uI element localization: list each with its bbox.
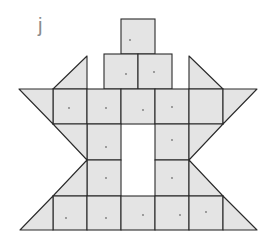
right-waist-triangle-upper <box>189 124 223 160</box>
right-bow-triangle <box>223 89 257 124</box>
pencil-mark <box>171 177 173 179</box>
pencil-mark <box>142 109 144 111</box>
left-bow-triangle <box>19 89 53 124</box>
grid-square <box>87 124 121 160</box>
pencil-mark <box>105 177 107 179</box>
pencil-mark <box>171 139 173 141</box>
right-waist-triangle-lower <box>189 160 223 196</box>
grid-square <box>87 196 121 230</box>
grid-square <box>155 124 189 160</box>
top-square <box>121 19 155 54</box>
left-waist-triangle-lower <box>53 160 87 196</box>
grid-square <box>53 196 87 230</box>
tier-square <box>138 54 172 89</box>
grid-square <box>189 89 223 124</box>
pencil-mark <box>105 146 107 148</box>
pencil-mark <box>105 107 107 109</box>
right-hull-triangle <box>223 196 257 230</box>
grid-square <box>189 196 223 230</box>
grid-square <box>87 160 121 196</box>
grid-square <box>53 89 87 124</box>
pencil-mark <box>142 214 144 216</box>
pencil-mark <box>105 217 107 219</box>
pencil-mark <box>65 217 67 219</box>
boat-tiling-figure <box>0 0 263 248</box>
tier-square <box>104 54 138 89</box>
pencil-mark <box>125 73 127 75</box>
pencil-mark <box>179 214 181 216</box>
grid-square <box>155 196 189 230</box>
pencil-mark <box>153 71 155 73</box>
pencil-mark <box>129 39 131 41</box>
pencil-mark <box>171 106 173 108</box>
left-waist-triangle-upper <box>53 124 87 160</box>
pencil-mark <box>68 107 70 109</box>
right-sail-triangle <box>189 56 223 89</box>
pencil-mark <box>205 211 207 213</box>
grid-square <box>121 89 155 124</box>
left-hull-triangle <box>20 196 53 230</box>
left-sail-triangle <box>53 56 87 89</box>
grid-square <box>121 196 155 230</box>
grid-square <box>87 89 121 124</box>
